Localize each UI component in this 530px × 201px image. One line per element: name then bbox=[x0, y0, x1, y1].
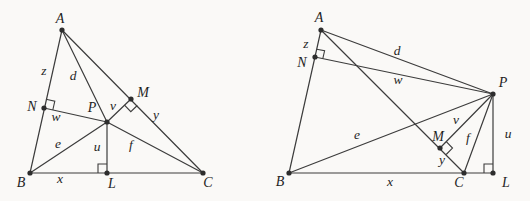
vertex-label-L: L bbox=[501, 175, 510, 190]
segment-label-z: z bbox=[40, 63, 47, 78]
segment-label-u: u bbox=[505, 126, 512, 141]
point-L bbox=[490, 170, 495, 175]
segment-CP bbox=[107, 122, 203, 173]
segment-label-w: w bbox=[51, 109, 60, 124]
point-P bbox=[104, 119, 109, 124]
point-L bbox=[104, 170, 109, 175]
point-A bbox=[59, 27, 64, 32]
segment-label-y: y bbox=[437, 152, 445, 167]
right-obtuse-triangle-figure: ABCLMNPzdwevfuyx bbox=[276, 10, 512, 190]
segment-label-f: f bbox=[129, 137, 135, 152]
point-P bbox=[490, 91, 495, 96]
vertex-label-P: P bbox=[498, 75, 508, 90]
segment-label-x: x bbox=[386, 174, 393, 189]
right-angle-mark-M bbox=[446, 142, 452, 155]
vertex-label-B: B bbox=[17, 175, 26, 190]
segment-label-d: d bbox=[70, 68, 77, 83]
vertex-label-C: C bbox=[454, 175, 464, 190]
segment-PN bbox=[315, 57, 493, 94]
point-A bbox=[318, 27, 323, 32]
vertex-label-N: N bbox=[296, 55, 307, 70]
vertex-label-C: C bbox=[203, 175, 213, 190]
segment-label-f: f bbox=[466, 130, 472, 145]
segment-label-e: e bbox=[354, 127, 360, 142]
segment-label-u: u bbox=[94, 139, 101, 154]
vertex-label-L: L bbox=[107, 176, 116, 191]
left-acute-triangle-figure: ABCLMNPzdwvyeufx bbox=[17, 11, 214, 191]
point-M bbox=[437, 145, 442, 150]
geometry-diagram: ABCLMNPzdwvyeufxABCLMNPzdwevfuyx bbox=[0, 0, 530, 201]
point-B bbox=[27, 170, 32, 175]
right-angle-mark-M bbox=[125, 105, 138, 112]
point-N bbox=[312, 54, 317, 59]
vertex-label-A: A bbox=[314, 10, 324, 25]
vertex-label-A: A bbox=[55, 11, 65, 26]
segment-label-z: z bbox=[302, 36, 309, 51]
segment-label-v: v bbox=[453, 112, 459, 127]
segment-BP bbox=[289, 94, 493, 173]
vertex-label-M: M bbox=[136, 85, 150, 100]
segment-label-x: x bbox=[56, 171, 63, 186]
point-M bbox=[128, 96, 133, 101]
figure-canvas: ABCLMNPzdwvyeufxABCLMNPzdwevfuyx bbox=[0, 0, 530, 201]
vertex-label-M: M bbox=[431, 129, 445, 144]
segment-label-e: e bbox=[55, 136, 61, 151]
segment-AP bbox=[321, 30, 493, 94]
segment-label-d: d bbox=[394, 43, 401, 58]
vertex-label-N: N bbox=[26, 99, 37, 114]
vertex-label-B: B bbox=[276, 174, 285, 189]
segment-label-y: y bbox=[151, 107, 159, 122]
segment-label-v: v bbox=[110, 98, 116, 113]
point-B bbox=[286, 170, 291, 175]
segment-label-w: w bbox=[393, 72, 402, 87]
vertex-label-P: P bbox=[87, 100, 97, 115]
point-N bbox=[41, 105, 46, 110]
segment-AB bbox=[289, 30, 321, 173]
